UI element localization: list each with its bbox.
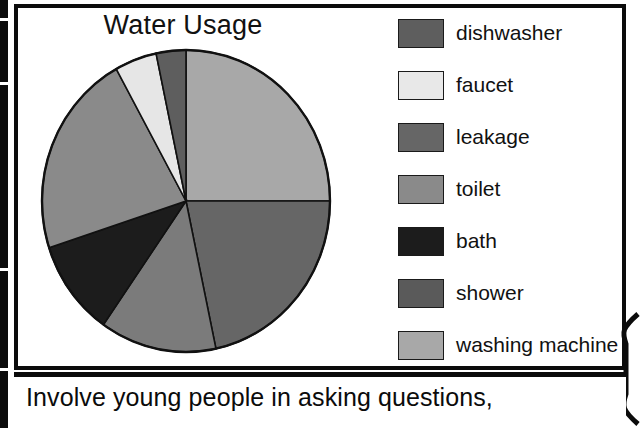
- legend-swatch-faucet: [398, 71, 444, 100]
- legend-item-washing-machine[interactable]: washing machine: [398, 324, 618, 366]
- pie-slice-washing-machine[interactable]: [186, 50, 330, 201]
- legend-item-toilet[interactable]: toilet: [398, 168, 500, 210]
- legend-swatch-washing-machine: [398, 331, 444, 360]
- chart-region: Water Usage: [18, 8, 378, 366]
- legend-label-toilet: toilet: [456, 177, 500, 201]
- legend-item-shower[interactable]: shower: [398, 272, 524, 314]
- slide-canvas: Water Usage dishwasher faucet leakage to…: [0, 0, 640, 428]
- legend-swatch-bath: [398, 227, 444, 256]
- legend-swatch-leakage: [398, 123, 444, 152]
- legend-swatch-shower: [398, 279, 444, 308]
- legend-item-leakage[interactable]: leakage: [398, 116, 530, 158]
- chart-legend: dishwasher faucet leakage toilet bath sh…: [398, 12, 638, 362]
- legend-item-dishwasher[interactable]: dishwasher: [398, 12, 562, 54]
- legend-item-faucet[interactable]: faucet: [398, 64, 513, 106]
- pie-chart-svg: [18, 8, 378, 366]
- legend-label-bath: bath: [456, 229, 497, 253]
- legend-swatch-toilet: [398, 175, 444, 204]
- legend-label-faucet: faucet: [456, 73, 513, 97]
- caption-text: Involve young people in asking questions…: [26, 382, 626, 412]
- legend-swatch-dishwasher: [398, 19, 444, 48]
- legend-label-leakage: leakage: [456, 125, 530, 149]
- legend-item-bath[interactable]: bath: [398, 220, 497, 262]
- page-edge-strip: [0, 0, 8, 428]
- legend-label-shower: shower: [456, 281, 524, 305]
- pie-chart: [18, 8, 378, 366]
- legend-label-washing-machine: washing machine: [456, 333, 618, 357]
- legend-label-dishwasher: dishwasher: [456, 21, 562, 45]
